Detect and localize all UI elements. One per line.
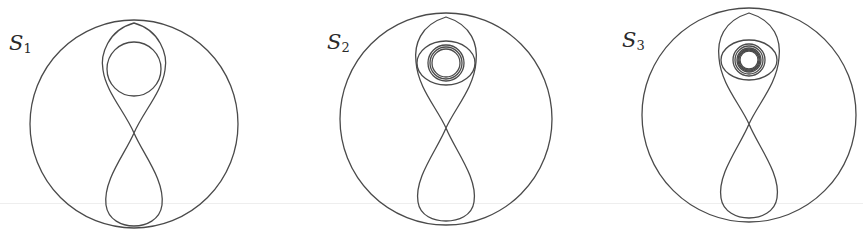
inner-ring (738, 49, 760, 71)
panel-s3: S3 (0, 0, 863, 251)
inner-ring (739, 50, 759, 70)
inner-ring (740, 51, 758, 69)
curve-diagram-s3 (0, 0, 863, 251)
